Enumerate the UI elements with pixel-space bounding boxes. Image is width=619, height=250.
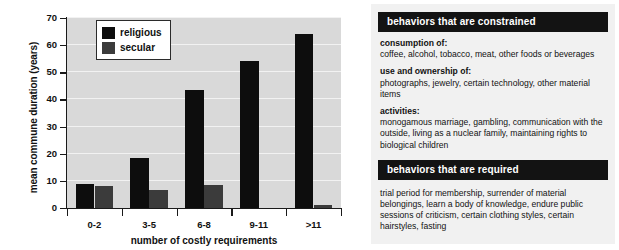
y-tick-70: 70 xyxy=(60,18,67,19)
y-tick-0: 0 xyxy=(60,208,67,209)
chart-legend: religious secular xyxy=(96,20,171,60)
y-tick-20: 20 xyxy=(60,154,67,155)
panel-body-required: trial period for membership, surrender o… xyxy=(371,180,615,233)
x-axis-line xyxy=(66,208,342,209)
legend-swatch-religious xyxy=(102,27,115,39)
y-tick-label-50: 50 xyxy=(46,66,57,77)
group-items-required: trial period for membership, surrender o… xyxy=(380,188,605,233)
x-category->11: >11 xyxy=(306,219,322,230)
x-tick-0 xyxy=(67,209,68,216)
x-category-3-5: 3-5 xyxy=(142,219,156,230)
y-tick-60: 60 xyxy=(60,45,67,46)
group-title-activities: activities: xyxy=(380,106,605,117)
y-tick-label-20: 20 xyxy=(46,148,57,159)
gridline-70 xyxy=(67,17,341,18)
bar-religious-9-11 xyxy=(240,61,259,208)
bar-religious-0-2 xyxy=(76,184,95,208)
bar-religious-3-5 xyxy=(130,158,149,208)
y-tick-label-30: 30 xyxy=(46,121,57,132)
x-category-0-2: 0-2 xyxy=(88,219,102,230)
panel-header-constrained: behaviors that are constrained xyxy=(378,12,608,32)
y-tick-label-40: 40 xyxy=(46,93,57,104)
panel-body-constrained: consumption of: coffee, alcohol, tobacco… xyxy=(371,32,615,151)
group-items-use-ownership: photographs, jewelry, certain technology… xyxy=(380,78,605,100)
group-title-use-ownership: use and ownership of: xyxy=(380,66,605,77)
panel-header-required: behaviors that are required xyxy=(378,160,608,180)
x-category-6-8: 6-8 xyxy=(197,219,211,230)
behaviors-info-panel: behaviors that are constrained consumpti… xyxy=(371,4,615,244)
y-tick-10: 10 xyxy=(60,181,67,182)
x-tick-1 xyxy=(122,209,123,216)
bar-secular-3-5 xyxy=(149,190,168,208)
y-tick-label-60: 60 xyxy=(46,39,57,50)
bar-secular-0-2 xyxy=(95,186,114,208)
legend-swatch-secular xyxy=(102,42,115,54)
group-use-ownership: use and ownership of: photographs, jewel… xyxy=(380,66,605,100)
x-tick-3 xyxy=(231,209,232,216)
legend-item-secular: secular xyxy=(102,40,162,55)
group-required-items: trial period for membership, surrender o… xyxy=(380,188,605,233)
bar-religious-6-8 xyxy=(185,90,204,208)
x-category-9-11: 9-11 xyxy=(250,219,269,230)
bar-chart-figure: mean commune duration (years) 0102030405… xyxy=(0,0,352,250)
y-axis-title: mean commune duration (years) xyxy=(28,23,39,213)
group-items-activities: monogamous marriage, gambling, communica… xyxy=(380,117,605,151)
bar-secular-6-8 xyxy=(204,185,223,208)
y-tick-label-70: 70 xyxy=(46,12,57,23)
legend-label-secular: secular xyxy=(120,42,155,53)
y-tick-40: 40 xyxy=(60,99,67,100)
y-tick-label-10: 10 xyxy=(46,175,57,186)
bar-religious->11 xyxy=(295,34,314,208)
legend-label-religious: religious xyxy=(120,27,162,38)
group-consumption: consumption of: coffee, alcohol, tobacco… xyxy=(380,38,605,60)
group-items-consumption: coffee, alcohol, tobacco, meat, other fo… xyxy=(380,49,605,60)
x-tick-4 xyxy=(286,209,287,216)
y-tick-30: 30 xyxy=(60,127,67,128)
x-axis-title: number of costly requirements xyxy=(67,235,341,246)
group-title-consumption: consumption of: xyxy=(380,38,605,49)
legend-item-religious: religious xyxy=(102,25,162,40)
y-tick-50: 50 xyxy=(60,72,67,73)
y-tick-label-0: 0 xyxy=(52,202,57,213)
group-activities: activities: monogamous marriage, gamblin… xyxy=(380,106,605,151)
x-tick-5 xyxy=(341,209,342,216)
x-tick-2 xyxy=(177,209,178,216)
